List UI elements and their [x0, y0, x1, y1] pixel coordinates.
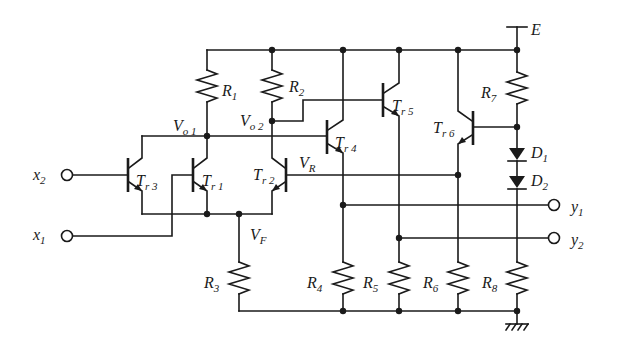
y2-label: y2 [569, 231, 584, 251]
circuit-schematic: E R1 R2 Vo 1 Vo 2 Tr 3 Tr 1 [0, 0, 621, 360]
vo2-label: Vo 2 [240, 112, 264, 132]
transistor-tr5 [383, 50, 399, 262]
junction [204, 211, 210, 217]
resistor-r6 [448, 262, 468, 311]
vr-label: VR [299, 154, 316, 174]
junction [396, 235, 402, 241]
resistor-r5 [389, 262, 409, 311]
diode-d2 [508, 176, 526, 262]
output-y1-terminal[interactable] [549, 200, 560, 211]
junction [455, 308, 461, 314]
supply-label: E [530, 21, 541, 38]
d1-label: D1 [530, 144, 548, 164]
resistor-r4 [333, 262, 353, 311]
r2-label: R2 [288, 78, 305, 98]
resistor-r8 [507, 262, 527, 311]
supply-e [507, 27, 527, 50]
input-x2-terminal[interactable] [62, 170, 73, 181]
r5-label: R5 [362, 274, 379, 294]
d2-label: D2 [530, 172, 549, 192]
x1-label: x1 [32, 226, 46, 246]
r8-label: R8 [481, 274, 498, 294]
transistor-tr2 [272, 121, 286, 214]
junction [340, 202, 346, 208]
resistor-r2 [262, 50, 282, 121]
tr2-label: Tr 2 [253, 166, 275, 186]
x2-label: x2 [32, 166, 46, 186]
diode-d1 [508, 127, 526, 176]
tr6-label: Tr 6 [433, 119, 455, 139]
vo1-label: Vo 1 [173, 117, 197, 137]
y1-label: y1 [569, 198, 584, 218]
r6-label: R6 [422, 274, 439, 294]
vo2-wire [272, 100, 383, 121]
r4-label: R4 [306, 274, 323, 294]
junction [396, 308, 402, 314]
vf-label: VF [250, 226, 267, 246]
r3-label: R3 [203, 274, 220, 294]
resistor-r3 [229, 214, 249, 311]
r1-label: R1 [221, 82, 237, 102]
r7-label: R7 [480, 84, 497, 104]
junction [340, 308, 346, 314]
resistor-r7 [507, 50, 527, 127]
resistor-r1 [197, 50, 217, 136]
ground-icon [506, 311, 528, 330]
input-x1-terminal[interactable] [62, 231, 73, 242]
transistor-tr4 [327, 50, 343, 262]
output-y2-terminal[interactable] [549, 233, 560, 244]
